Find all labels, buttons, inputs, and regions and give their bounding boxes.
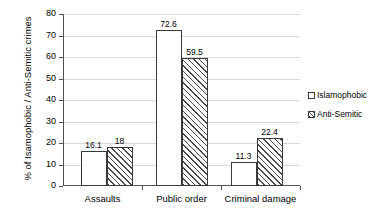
x-tick-mark [221, 186, 222, 190]
x-axis-category-label: Criminal damage [221, 193, 300, 204]
y-tick-label: 20 [46, 137, 56, 148]
legend-item[interactable]: Islamophobic [308, 90, 391, 100]
x-tick-mark [142, 186, 143, 190]
bar-value-label: 59.5 [186, 47, 203, 57]
bar-group: 72.659.5 [156, 14, 208, 186]
bar-group: 16.118 [81, 14, 133, 186]
y-tick-label: 80 [46, 8, 56, 19]
bar[interactable]: 22.4 [257, 138, 283, 186]
legend-label: Anti-Semitic [317, 109, 362, 119]
legend-swatch-icon [308, 92, 315, 99]
bar-value-label: 11.3 [236, 151, 252, 161]
bar-value-label: 72.6 [160, 19, 177, 29]
bar-chart: % of Isamophobic / Anti-Semitic crimes 0… [0, 0, 391, 224]
bar-value-label: 16.1 [85, 140, 102, 150]
legend-swatch-icon [308, 111, 315, 118]
y-tick-label: 70 [46, 30, 56, 41]
bar-value-label: 18 [115, 136, 124, 146]
legend-label: Islamophobic [317, 90, 367, 100]
x-axis-category-label: Public order [142, 193, 221, 204]
bar-value-label: 22.4 [261, 127, 278, 137]
legend: IslamophobicAnti-Semitic [308, 90, 391, 128]
bar[interactable]: 18 [107, 147, 133, 186]
bar[interactable]: 59.5 [182, 58, 208, 186]
bar[interactable]: 72.6 [156, 30, 182, 186]
y-tick-label: 50 [46, 73, 56, 84]
bar-groups: 16.11872.659.511.322.4 [63, 14, 300, 186]
y-tick-label: 60 [46, 51, 56, 62]
y-axis-ticks: 01020304050607080 [0, 14, 63, 186]
y-tick-label: 40 [46, 94, 56, 105]
x-axis: AssaultsPublic orderCriminal damage [63, 186, 300, 216]
y-tick-label: 10 [46, 159, 56, 170]
y-tick-label: 0 [51, 180, 56, 191]
legend-item[interactable]: Anti-Semitic [308, 109, 391, 119]
bar[interactable]: 16.1 [81, 151, 107, 186]
x-axis-category-label: Assaults [63, 193, 142, 204]
x-tick-mark [300, 186, 301, 190]
bar[interactable]: 11.3 [231, 162, 257, 186]
bar-group: 11.322.4 [231, 14, 283, 186]
y-tick-label: 30 [46, 116, 56, 127]
